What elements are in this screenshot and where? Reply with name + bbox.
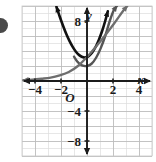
y-axis-label: y — [84, 8, 92, 23]
coordinate-plane: −4−2248−4−8 x y O — [0, 0, 156, 162]
origin-label: O — [65, 90, 75, 105]
y-tick-label: 8 — [75, 14, 82, 29]
x-tick-label: 2 — [110, 82, 117, 97]
y-tick-label: −4 — [67, 104, 81, 119]
y-tick-label: −8 — [67, 134, 81, 149]
x-tick-label: −4 — [28, 82, 42, 97]
x-axis-label: x — [137, 72, 145, 87]
graph-figure: −4−2248−4−8 x y O — [0, 0, 156, 162]
